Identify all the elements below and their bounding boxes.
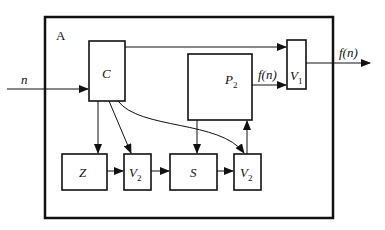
svg-text:S: S: [190, 165, 197, 180]
block-diagram: A C P2 V1 Z V2 S V2: [0, 0, 385, 230]
block-P2: P2: [188, 54, 252, 120]
block-C: C: [89, 41, 125, 101]
edge-C-to-V2a: [109, 101, 131, 153]
input-label: n: [21, 72, 28, 87]
block-Z: Z: [62, 154, 107, 190]
output-label: f(n): [339, 45, 358, 60]
svg-text:Z: Z: [79, 165, 87, 180]
block-V2-first: V2: [124, 154, 151, 190]
svg-text:C: C: [102, 66, 111, 81]
svg-text:P2: P2: [224, 72, 237, 90]
container-label: A: [56, 28, 66, 43]
block-S: S: [170, 154, 217, 190]
svg-text:V1: V1: [290, 68, 302, 86]
P2-to-V1-label: f(n): [258, 67, 277, 82]
svg-text:V2: V2: [129, 165, 141, 183]
block-V1: V1: [287, 40, 306, 89]
edge-C-to-V2b: [118, 101, 244, 153]
block-V2-second: V2: [234, 154, 261, 190]
svg-text:V2: V2: [240, 165, 252, 183]
